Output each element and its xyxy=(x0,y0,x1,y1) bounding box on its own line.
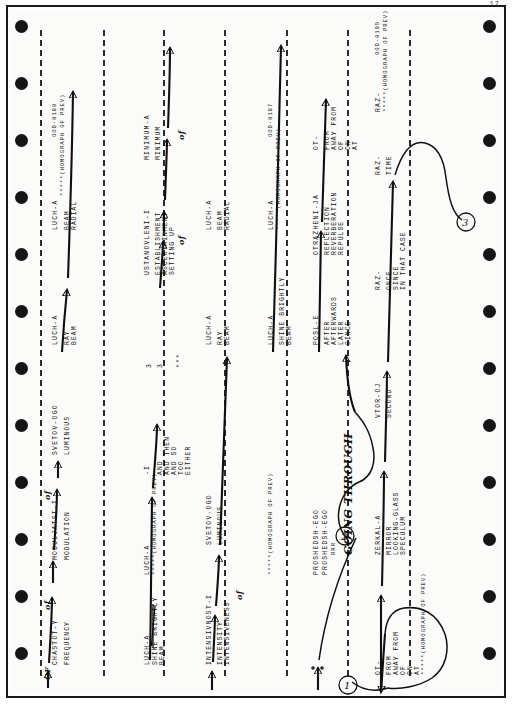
entry-gloss-luch-struck-beam: BEAM xyxy=(159,645,166,665)
column-rule xyxy=(103,30,105,676)
entry-stem-svetov-2: SVETOV-OGO xyxy=(206,494,213,545)
entry-stem-vtor: VTOR-OJ xyxy=(375,382,382,418)
sprocket-hole xyxy=(483,20,496,33)
sprocket-hole xyxy=(15,476,28,489)
column-rule xyxy=(286,30,288,676)
entry-homograph-note-raz: *****(HOMOGRAPH OF PREV) xyxy=(383,10,390,112)
sprocket-hole xyxy=(15,77,28,90)
column-rule xyxy=(163,30,165,676)
footnote-marker-b: 3 xyxy=(146,363,153,368)
entry-stem-proshedsh-2: PROSHEDSH-EGO xyxy=(322,509,329,575)
sprocket-hole xyxy=(15,20,28,33)
sprocket-hole xyxy=(483,191,496,204)
sprocket-hole xyxy=(15,134,28,147)
entry-gloss-luch-1-beam: BEAM xyxy=(71,325,78,345)
entry-gloss-raz-time: TIME xyxy=(386,155,393,175)
sprocket-hole xyxy=(483,533,496,546)
sprocket-hole xyxy=(15,248,28,261)
entry-stem-ot-bottom: OT- xyxy=(375,660,382,675)
entry-stem-posl: POSL-E xyxy=(313,314,320,345)
entry-gloss-speculum: SPECULUM xyxy=(400,516,407,555)
entry-gloss-minimum: MINIMUM xyxy=(155,126,162,160)
entry-homograph-note-ot: *****(HOMOGRAPH OF PREV) xyxy=(421,573,428,675)
sprocket-strip-left xyxy=(10,0,36,704)
entry-stem-luch-1: LUCH-A xyxy=(52,314,59,345)
entry-homograph-note-luch-2: *****(HOMOGRAPH OF PREV) xyxy=(268,473,275,575)
entry-stem-raz-2: RAZ- xyxy=(375,155,382,175)
handwritten-of-4: of xyxy=(176,235,186,245)
handwritten-of-5: of xyxy=(176,130,186,140)
entry-homograph-note-luch-1: *****(HOMOGRAPH OF PREV) xyxy=(60,94,67,196)
entry-stem-otrazheni: OTRAZHENI-JA xyxy=(313,194,320,255)
footnote-marker-c: *** xyxy=(176,353,183,368)
entry-gloss-luch-2b-radial: RADIAL xyxy=(224,201,231,230)
entry-gloss-raz-inthatcase: IN THAT CASE xyxy=(400,231,407,290)
entry-gloss-chastot: FREQUENCY xyxy=(64,621,71,665)
sprocket-hole xyxy=(15,191,28,204)
sprocket-hole xyxy=(15,533,28,546)
entry-gloss-conj-either: EITHER xyxy=(185,446,192,475)
scanned-page: 17 CHASTOT-Y FREQUENCY xyxy=(0,0,514,704)
sprocket-hole xyxy=(483,77,496,90)
sprocket-hole xyxy=(15,590,28,603)
entry-gloss-ustanovleni-3: SETTING UP xyxy=(169,226,176,275)
sprocket-hole xyxy=(483,248,496,261)
sprocket-strip-right xyxy=(478,0,504,704)
handwritten-of-3: of xyxy=(42,490,52,500)
entry-stem-chastot: CHASTOT-Y xyxy=(52,619,59,665)
handwritten-marker-rrr: RRR xyxy=(331,542,338,555)
entry-gloss-luch-1-homo-radial: RADIAL xyxy=(71,201,78,230)
sprocket-hole xyxy=(483,476,496,489)
entry-stem-luch-3: LUCH-A xyxy=(268,314,275,345)
entry-stem-ustanovleni: USTANOVLENI-I xyxy=(144,209,151,275)
entry-gloss-posl-since: SINCE xyxy=(345,321,352,345)
handwritten-of-2: of xyxy=(42,600,52,610)
entry-gloss-luch-2-beam: BEAM xyxy=(224,325,231,345)
entry-homograph-note-luch-3: *****(HOMOGRAPH OF PREV) xyxy=(276,128,283,230)
sprocket-hole xyxy=(15,647,28,660)
entry-gloss-luch-3-beam: BEAM xyxy=(286,325,293,345)
column-rule xyxy=(347,30,349,676)
entry-homograph-note-luch-struck: *****(HOMOGRAPH OF PREV) xyxy=(152,473,159,575)
entry-gloss-svetov-1: LUMINOUS xyxy=(64,416,71,455)
entry-stem-ot-top: OT- xyxy=(313,135,320,150)
entry-stem-conj: -I xyxy=(144,465,151,475)
entry-gloss-repulse: REPULSE xyxy=(338,221,345,255)
entry-stem-intensivnost: INTENSIVNOST-I xyxy=(206,594,213,665)
entry-stem-zerkal: ZERKAL-A xyxy=(375,514,382,555)
entry-gloss-moduljatsi: MODULATION xyxy=(64,511,71,560)
handwritten-gloss-going-through: GOING THROUGH xyxy=(342,433,355,555)
entry-stem-svetov-1: SVETOV-OGO xyxy=(52,404,59,455)
footnote-marker-a: 3 xyxy=(157,363,164,368)
sprocket-hole xyxy=(483,419,496,432)
entry-gloss-second: SECOND xyxy=(386,389,393,418)
column-rule xyxy=(224,30,226,676)
entry-stem-proshedsh-1: PROSHEDSH-EGO xyxy=(313,509,320,575)
sprocket-hole xyxy=(483,362,496,375)
entry-stem-luch-struck: LUCH-A xyxy=(144,634,151,665)
sprocket-hole xyxy=(483,647,496,660)
entry-code-raz: OOD-0195 xyxy=(375,21,382,55)
sprocket-hole xyxy=(15,305,28,318)
sprocket-hole xyxy=(15,419,28,432)
column-rule xyxy=(40,30,42,676)
sprocket-hole xyxy=(483,590,496,603)
entry-stem-minimum: MINIMUM-A xyxy=(144,114,151,160)
entry-stem-luch-2b: LUCH-A xyxy=(206,199,213,230)
entry-code-luch-1-homo: OOD-0180 xyxy=(52,103,59,137)
column-rule xyxy=(409,30,411,676)
entry-stem-raz-1: RAZ- xyxy=(375,270,382,290)
entry-code-luch-3: OOD-0187 xyxy=(268,103,275,137)
sheet-surface xyxy=(12,11,502,693)
handwritten-of-1: OF xyxy=(42,667,52,680)
entry-gloss-intensiveness: INTENSIVENESS xyxy=(224,601,231,665)
sprocket-hole xyxy=(483,134,496,147)
entry-gloss-ot-at: AT xyxy=(352,140,359,150)
entry-stem-moduljatsi: MODULJATSI-I xyxy=(52,499,59,560)
entry-gloss-svetov-2: LUMINOUS xyxy=(217,506,224,545)
sprocket-hole xyxy=(15,362,28,375)
sprocket-hole xyxy=(483,305,496,318)
entry-stem-luch-2: LUCH-A xyxy=(206,314,213,345)
entry-stem-luch-1-homo: LUCH-A xyxy=(52,199,59,230)
handwritten-of-6: of xyxy=(234,590,244,600)
